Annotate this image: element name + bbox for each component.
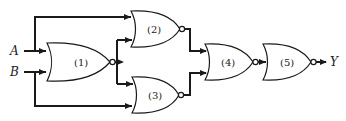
gate-1: (1) (47, 43, 115, 81)
input-b-label: B (9, 65, 19, 79)
arrow-g5-y (320, 59, 327, 65)
gate-4-bubble (253, 59, 258, 64)
arrow-b-gate1 (39, 69, 46, 75)
arrow-a-gate2 (124, 14, 131, 20)
arrow-g2-gate4 (200, 48, 207, 54)
gate-1-label: (1) (74, 57, 88, 68)
circuit-svg: (1) (2) (3) (4) (5) A B Y (0, 0, 346, 121)
arrow-g4-gate5 (259, 59, 266, 65)
gate-1-bubble (110, 59, 115, 64)
gate-4: (4) (205, 44, 258, 80)
output-y-label: Y (330, 55, 339, 69)
wire-gate3-to-gate4 (183, 73, 206, 95)
logic-circuit-diagram: (1) (2) (3) (4) (5) A B Y (0, 0, 346, 121)
arrow-g3-gate4 (200, 70, 207, 76)
arrow-g1-gate2 (125, 37, 132, 43)
gate-3: (3) (132, 77, 184, 113)
gate-2-bubble (179, 26, 184, 31)
junction-dot (115, 60, 119, 64)
gate-5-label: (5) (280, 57, 294, 68)
gate-2-label: (2) (147, 24, 161, 35)
gate-2: (2) (131, 11, 185, 47)
gate-5-bubble (311, 59, 316, 64)
gate-3-bubble (178, 92, 183, 97)
wire-gate2-to-gate4 (184, 29, 206, 51)
gate-5: (5) (263, 44, 316, 80)
arrow-a-gate1 (39, 48, 46, 54)
input-a-label: A (9, 44, 19, 58)
gate-3-label: (3) (148, 90, 162, 101)
gate-4-label: (4) (221, 57, 235, 68)
arrow-g1-gate3 (126, 81, 133, 87)
arrow-b-gate3 (125, 103, 132, 109)
